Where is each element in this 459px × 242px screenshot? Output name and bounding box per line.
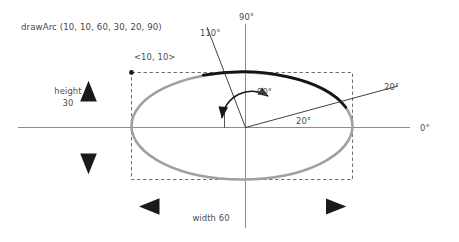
height-label-value: 30 [63,98,74,108]
start-angle-ray-group [225,86,399,128]
start-angle-label: 20° [296,116,311,126]
arc-path [203,72,346,107]
draw-arc-diagram: drawArc (10, 10, 60, 30, 20, 90) <10, 10… [0,0,459,242]
title-label: drawArc (10, 10, 60, 30, 20, 90) [21,22,162,32]
origin-coordinate-label: <10, 10> [134,52,175,62]
angle-90-axis-label: 90° [239,12,254,22]
arc-extent-label: 90° [257,87,272,97]
origin-point-marker [129,70,134,75]
height-label-word: height [54,86,82,96]
width-label: width 60 [192,213,229,223]
ellipse-shape [132,73,353,180]
diagram-canvas: drawArc (10, 10, 60, 30, 20, 90) <10, 10… [0,0,459,242]
start-angle-ray-label: 20° [384,82,399,92]
end-angle-ray-group [207,27,246,128]
angle-110-label: 110° [200,28,221,38]
highlighted-arc [203,72,346,107]
ellipse-outline [132,73,353,180]
angle-0-label: 0° [420,123,430,133]
end-angle-ray-110 [207,27,246,128]
